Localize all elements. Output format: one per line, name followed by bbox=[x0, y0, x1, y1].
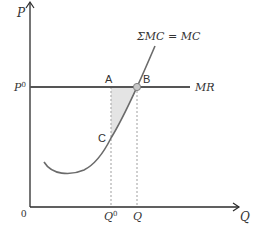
point-a-label: A bbox=[105, 73, 113, 85]
q-label: Q bbox=[133, 210, 142, 223]
point-b-marker bbox=[133, 83, 140, 90]
mc-curve-label: ΣMC = MC bbox=[136, 30, 201, 43]
y-axis-label: P bbox=[16, 6, 26, 20]
mc-curve bbox=[44, 46, 155, 174]
marginal-cost-diagram: P P0 MR ΣMC = MC A B C 0 Q0 Q Q bbox=[0, 0, 256, 240]
point-c-label: C bbox=[98, 132, 106, 144]
mr-label: MR bbox=[194, 81, 215, 94]
price-label: P0 bbox=[13, 81, 26, 94]
origin-label: 0 bbox=[21, 207, 27, 219]
point-b-label: B bbox=[143, 73, 150, 85]
x-axis-label: Q bbox=[240, 210, 250, 224]
q0-label: Q0 bbox=[104, 210, 118, 223]
